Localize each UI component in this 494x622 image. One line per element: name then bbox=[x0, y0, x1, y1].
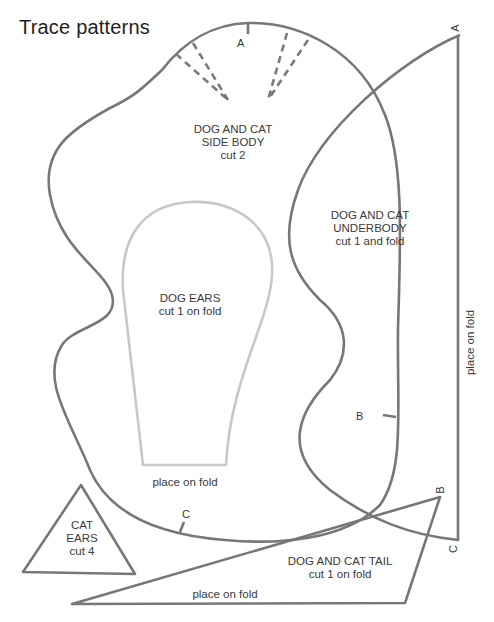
cat-ears-label-line2: EARS bbox=[52, 532, 112, 545]
dog-ears-label-line1: DOG EARS bbox=[130, 292, 250, 305]
dog-ears-fold-label: place on fold bbox=[135, 476, 235, 489]
side-body-label-line2: SIDE BODY bbox=[163, 136, 303, 149]
cat-ears-label-line3: cut 4 bbox=[52, 545, 112, 558]
underbody-label-line1: DOG AND CAT bbox=[300, 209, 440, 222]
underbody-marker-a: A bbox=[449, 24, 461, 31]
dog-ears-outline bbox=[123, 202, 272, 465]
side-body-label-line3: cut 2 bbox=[163, 149, 303, 162]
side-body-dart-right bbox=[268, 33, 308, 100]
side-body-marker-a: A bbox=[237, 37, 244, 49]
underbody-fold-label: place on fold bbox=[464, 303, 477, 383]
side-body-notch-c bbox=[180, 522, 184, 532]
tail-label-line1: DOG AND CAT TAIL bbox=[270, 555, 410, 568]
side-body-marker-c: C bbox=[182, 508, 190, 520]
dog-ears-label-line2: cut 1 on fold bbox=[130, 305, 250, 318]
underbody-label-line3: cut 1 and fold bbox=[300, 235, 440, 248]
cat-ears-label: CAT EARS cut 4 bbox=[52, 519, 112, 558]
tail-fold-label: place on fold bbox=[175, 588, 275, 601]
page-title: Trace patterns bbox=[19, 16, 150, 39]
tail-label: DOG AND CAT TAIL cut 1 on fold bbox=[270, 555, 410, 581]
underbody-outline bbox=[289, 35, 460, 540]
side-body-dart-left bbox=[176, 43, 228, 100]
underbody-notch-b bbox=[383, 415, 396, 417]
cat-ears-label-line1: CAT bbox=[52, 519, 112, 532]
tail-marker-b: B bbox=[434, 486, 446, 493]
side-body-label: DOG AND CAT SIDE BODY cut 2 bbox=[163, 123, 303, 162]
underbody-label: DOG AND CAT UNDERBODY cut 1 and fold bbox=[300, 209, 440, 248]
side-body-label-line1: DOG AND CAT bbox=[163, 123, 303, 136]
tail-label-line2: cut 1 on fold bbox=[270, 568, 410, 581]
dog-ears-label: DOG EARS cut 1 on fold bbox=[130, 292, 250, 318]
underbody-marker-b: B bbox=[356, 410, 363, 422]
underbody-marker-c: C bbox=[447, 545, 459, 553]
underbody-label-line2: UNDERBODY bbox=[300, 222, 440, 235]
